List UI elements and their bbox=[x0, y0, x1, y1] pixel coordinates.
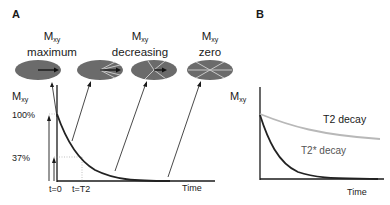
panel-a-decay-curve bbox=[57, 114, 170, 181]
pointer-arrowheads bbox=[50, 81, 201, 87]
disc-dephasing-late bbox=[131, 60, 177, 80]
disc-maximum bbox=[15, 60, 61, 80]
t2star-decay-curve bbox=[260, 115, 378, 179]
panel-a-axes bbox=[47, 85, 215, 182]
disc-dephasing-early bbox=[77, 60, 123, 80]
disc-zero bbox=[187, 60, 233, 80]
pointer-lines bbox=[52, 83, 200, 177]
diagram-graphics bbox=[0, 0, 390, 205]
t2-decay-curve bbox=[260, 114, 380, 139]
panel-b-axes bbox=[260, 87, 384, 180]
